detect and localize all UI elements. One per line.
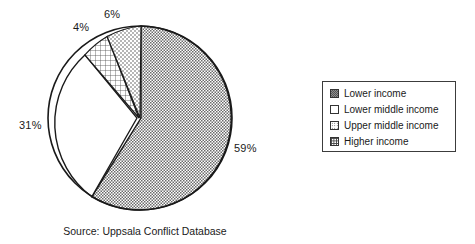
legend-label-lower-income: Lower income — [344, 88, 406, 99]
legend-item-higher-income: Higher income — [330, 134, 455, 149]
legend-item-lower-income: Lower income — [330, 86, 455, 101]
source-caption: Source: Uppsala Conflict Database — [0, 225, 290, 237]
legend-item-upper-middle-income: Upper middle income — [330, 118, 455, 133]
legend-label-lower-middle-income: Lower middle income — [344, 104, 439, 115]
pie-label-lower-income: 59% — [234, 142, 257, 154]
pie-chart-area: 59% 31% 4% 6% Source: Uppsala Conflict D… — [0, 0, 290, 244]
pie-label-higher-income: 4% — [73, 21, 89, 33]
pie-label-lower-middle-income: 31% — [19, 119, 42, 131]
chart-page: 59% 31% 4% 6% Source: Uppsala Conflict D… — [0, 0, 475, 244]
legend-item-lower-middle-income: Lower middle income — [330, 102, 455, 117]
pie-chart-svg — [0, 0, 290, 244]
pie-label-upper-middle-income: 6% — [104, 8, 120, 20]
legend-swatch-lower-income-icon — [330, 89, 339, 98]
legend-swatch-higher-income-icon — [330, 137, 339, 146]
legend-label-higher-income: Higher income — [344, 136, 408, 147]
legend-swatch-lower-middle-income-icon — [330, 105, 339, 114]
legend-swatch-upper-middle-income-icon — [330, 121, 339, 130]
legend-label-upper-middle-income: Upper middle income — [344, 120, 439, 131]
chart-legend: Lower income Lower middle income Upper m… — [322, 81, 456, 152]
